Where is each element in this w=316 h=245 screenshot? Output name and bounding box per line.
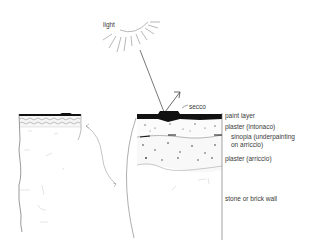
label-light: light <box>103 21 115 28</box>
wall-overview <box>19 113 81 232</box>
sun-ray <box>145 28 154 34</box>
label-arriccio: plaster (arriccio) <box>225 155 272 162</box>
secco-pointer <box>182 105 188 108</box>
label-wall: stone or brick wall <box>225 195 277 202</box>
sun-ray <box>103 34 112 40</box>
label-intonaco: plaster (intonaco) <box>225 123 275 130</box>
reflected-light-arrow <box>165 92 180 112</box>
sun-ray <box>124 37 126 51</box>
label-secco: secco <box>189 103 206 110</box>
label-paint-layer: paint layer <box>225 112 255 119</box>
overview-paint-layer <box>19 113 81 116</box>
section-curve <box>126 118 136 238</box>
cross-section-main <box>126 111 222 240</box>
sun-ray <box>136 34 140 44</box>
sun-ray <box>109 36 116 48</box>
overview-left-edge <box>19 114 22 232</box>
sun-ray <box>117 37 121 52</box>
sun-arc <box>120 22 148 32</box>
double-arrow <box>86 124 116 187</box>
incident-light-ray <box>140 50 164 112</box>
sun-ray <box>131 36 132 46</box>
sun-ray <box>148 25 158 28</box>
label-sinopia-line2: on arriccio) <box>231 141 263 148</box>
label-sinopia-line1: sinopia (underpainting <box>231 133 295 140</box>
sun-ray <box>141 31 147 40</box>
